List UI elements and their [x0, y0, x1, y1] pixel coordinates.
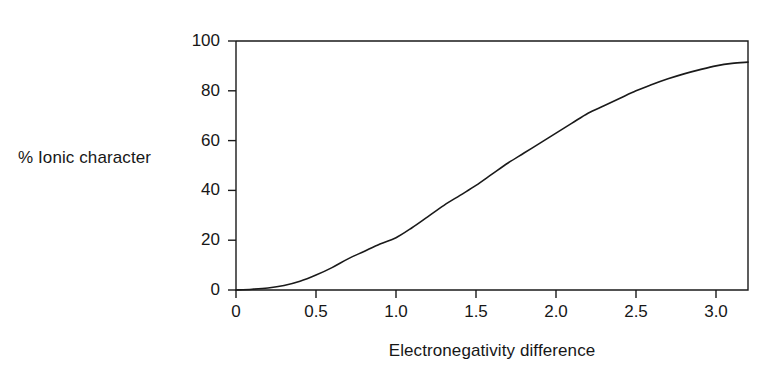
y-axis-ticks	[228, 41, 236, 290]
plot-area	[0, 0, 770, 387]
chart-figure: % Ionic character Electronegativity diff…	[0, 0, 770, 387]
x-axis-ticks	[236, 290, 716, 298]
ionic-character-curve	[236, 62, 748, 290]
